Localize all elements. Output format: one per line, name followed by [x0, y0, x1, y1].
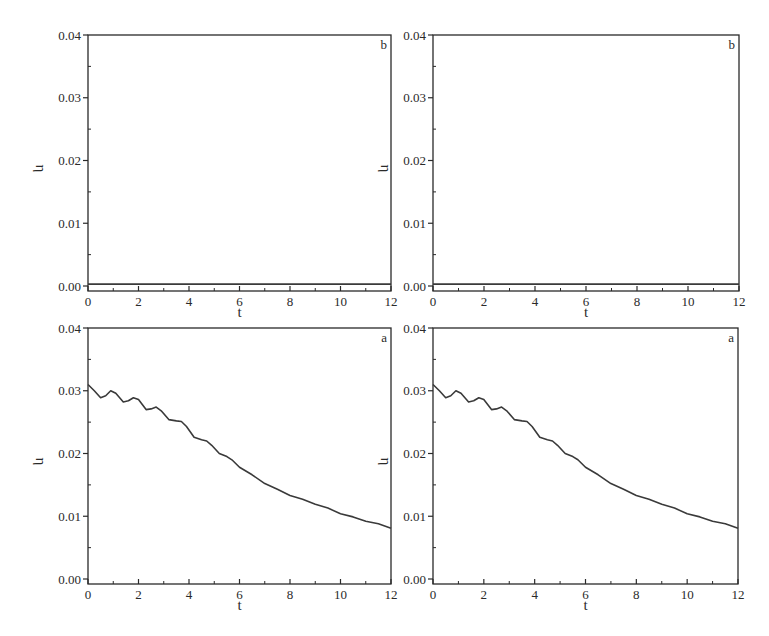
x-tick-label: 12 — [385, 587, 398, 602]
y-tick-label: 0.03 — [403, 90, 426, 105]
x-tick-label: 10 — [682, 294, 695, 309]
x-tick-label: 8 — [287, 587, 294, 602]
x-tick-label: 4 — [532, 294, 539, 309]
x-tick-label: 8 — [633, 587, 640, 602]
panel-tag: b — [729, 37, 736, 52]
plot-frame — [433, 328, 738, 584]
y-tick-label: 0.04 — [58, 321, 81, 336]
y-tick-label: 0.04 — [403, 28, 426, 43]
y-tick-label: 0.00 — [403, 279, 426, 294]
plot-frame — [433, 35, 739, 291]
y-tick-label: 0.04 — [58, 28, 81, 43]
y-tick-label: 0.02 — [58, 446, 81, 461]
y-tick-label: 0.00 — [58, 279, 81, 294]
x-tick-label: 0 — [430, 294, 437, 309]
y-axis-label: η — [378, 165, 394, 173]
data-line — [433, 385, 738, 529]
panel-tag: b — [381, 37, 388, 52]
y-tick-label: 0.02 — [58, 153, 81, 168]
x-tick-label: 2 — [135, 294, 142, 309]
data-line — [88, 385, 391, 529]
x-tick-label: 12 — [385, 294, 398, 309]
plot-frame — [88, 35, 391, 291]
x-tick-label: 12 — [732, 587, 745, 602]
x-tick-label: 10 — [334, 294, 347, 309]
figure: 0.000.010.020.030.04024681012tηb 0.000.0… — [0, 0, 769, 636]
x-tick-label: 10 — [681, 587, 694, 602]
panel-bottom-right: 0.000.010.020.030.04024681012tηa — [378, 321, 745, 614]
x-tick-label: 8 — [287, 294, 294, 309]
x-tick-label: 0 — [85, 587, 92, 602]
x-tick-label: 2 — [481, 294, 488, 309]
x-tick-label: 4 — [531, 587, 538, 602]
x-tick-label: 12 — [733, 294, 746, 309]
panel-tag: a — [728, 330, 734, 345]
x-tick-label: 4 — [186, 294, 193, 309]
y-axis-label: η — [33, 458, 49, 466]
y-tick-label: 0.01 — [403, 216, 426, 231]
x-tick-label: 10 — [334, 587, 347, 602]
y-axis-label: η — [378, 458, 394, 466]
y-tick-label: 0.01 — [58, 509, 81, 524]
y-tick-label: 0.00 — [403, 572, 426, 587]
y-tick-label: 0.03 — [58, 90, 81, 105]
x-tick-label: 2 — [135, 587, 142, 602]
x-tick-label: 2 — [481, 587, 488, 602]
y-tick-label: 0.03 — [403, 383, 426, 398]
x-tick-label: 0 — [85, 294, 92, 309]
y-tick-label: 0.00 — [58, 572, 81, 587]
panel-tag: a — [381, 330, 387, 345]
panel-bottom-left: 0.000.010.020.030.04024681012tηa — [33, 321, 398, 614]
plot-frame — [88, 328, 391, 584]
y-tick-label: 0.01 — [403, 509, 426, 524]
y-tick-label: 0.02 — [403, 153, 426, 168]
y-tick-label: 0.03 — [58, 383, 81, 398]
x-tick-label: 0 — [430, 587, 437, 602]
y-tick-label: 0.01 — [58, 216, 81, 231]
panel-top-right: 0.000.010.020.030.04024681012tηb — [378, 28, 746, 321]
panel-top-left: 0.000.010.020.030.04024681012tηb — [33, 28, 398, 321]
y-tick-label: 0.02 — [403, 446, 426, 461]
x-tick-label: 8 — [634, 294, 641, 309]
y-axis-label: η — [33, 165, 49, 173]
x-tick-label: 4 — [186, 587, 193, 602]
y-tick-label: 0.04 — [403, 321, 426, 336]
